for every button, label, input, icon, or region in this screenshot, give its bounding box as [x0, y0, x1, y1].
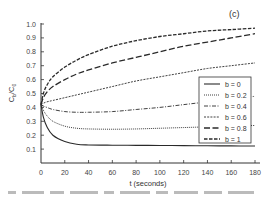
x-tick-label: 180 [249, 169, 261, 176]
y-axis-title: Cb/C0 [7, 84, 17, 103]
x-tick-label: 0 [39, 169, 43, 176]
y-tick-label: 0.9 [26, 34, 36, 41]
legend-label: b = 1 [225, 136, 241, 143]
y-tick-label: 1.0 [26, 21, 36, 28]
legend: b = 0b = 0.2b = 0.4b = 0.6b = 0.8b = 1 [199, 77, 251, 143]
svg-text:Cb/C0: Cb/C0 [7, 84, 17, 103]
y-tick-label: 0.7 [26, 62, 36, 69]
x-ticks: 020406080100120140160180 [39, 160, 261, 176]
legend-label: b = 0.4 [225, 103, 247, 110]
x-axis-title: t (seconds) [129, 179, 167, 188]
y-tick-label: 0.4 [26, 104, 36, 111]
x-tick-label: 40 [85, 169, 93, 176]
y-tick-label: 0.5 [26, 90, 36, 97]
x-tick-label: 80 [132, 169, 140, 176]
legend-label: b = 0 [225, 81, 241, 88]
x-tick-label: 100 [154, 169, 166, 176]
legend-label: b = 0.2 [225, 92, 247, 99]
x-tick-label: 120 [178, 169, 190, 176]
y-axis-title-sub-0: 0 [11, 84, 17, 87]
x-tick-label: 160 [225, 169, 237, 176]
y-tick-label: 0.2 [26, 132, 36, 139]
y-tick-label: 0.8 [26, 48, 36, 55]
x-tick-label: 60 [108, 169, 116, 176]
line-chart: 0.10.20.30.40.50.60.70.80.91.0 020406080… [0, 0, 276, 199]
legend-label: b = 0.6 [225, 114, 247, 121]
x-tick-label: 20 [61, 169, 69, 176]
y-tick-label: 0.3 [26, 118, 36, 125]
clipped-caption-text [8, 191, 268, 199]
x-tick-label: 140 [202, 169, 214, 176]
y-tick-label: 0.6 [26, 76, 36, 83]
panel-label: (c) [229, 9, 240, 19]
legend-label: b = 0.8 [225, 125, 247, 132]
y-tick-label: 0.1 [26, 146, 36, 153]
